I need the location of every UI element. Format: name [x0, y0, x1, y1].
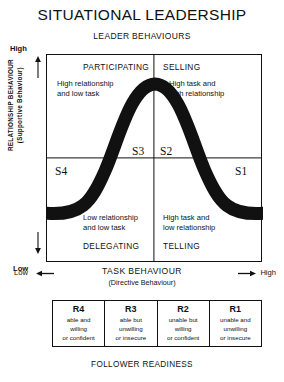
- quadrant-title-delegating: DELEGATING: [83, 241, 139, 251]
- follower-readiness-caption: FOLLOWER READINESS: [0, 360, 284, 369]
- y-axis-label-sub: (Supportive Behaviour): [16, 67, 23, 143]
- style-code-s4: S4: [55, 165, 67, 177]
- quadrant-desc-telling: High task and low relationship: [163, 213, 215, 234]
- leadership-matrix: PARTICIPATING High relationship and low …: [46, 54, 262, 262]
- readiness-cell-r1: R1 unable and unwilling or insecure: [210, 301, 261, 346]
- readiness-code-r2: R2: [177, 304, 189, 315]
- readiness-code-r1: R1: [230, 304, 242, 315]
- x-axis-label-sub: (Directive Behaviour): [0, 278, 284, 287]
- horizontal-divider: [47, 157, 261, 158]
- readiness-cell-r2: R2 unable but willing or confident: [158, 301, 210, 346]
- quadrant-title-selling: SELLING: [163, 62, 201, 72]
- y-axis-label: RELATIONSHIP BEHAVIOUR (Supportive Behav…: [6, 45, 24, 165]
- quadrant-desc-participating: High relationship and low task: [57, 79, 114, 100]
- readiness-desc-r2: unable but willing or confident: [167, 316, 199, 342]
- readiness-code-r3: R3: [125, 304, 137, 315]
- style-code-s1: S1: [235, 165, 247, 177]
- y-axis-label-main: RELATIONSHIP BEHAVIOUR: [7, 59, 14, 151]
- readiness-desc-r1: unable and unwilling or insecure: [220, 316, 251, 342]
- style-code-s2: S2: [160, 145, 172, 157]
- readiness-code-r4: R4: [73, 304, 85, 315]
- quadrant-title-participating: PARTICIPATING: [83, 62, 149, 72]
- readiness-cell-r4: R4 able and willing or confident: [53, 301, 105, 346]
- follower-readiness-table: R4 able and willing or confident R3 able…: [52, 300, 262, 347]
- right-arrow-icon: [238, 269, 256, 278]
- x-axis-high-label: High: [260, 268, 276, 277]
- readiness-cell-r3: R3 able but unwilling or insecure: [105, 301, 157, 346]
- quadrant-desc-selling: High task and high relationship: [169, 79, 224, 100]
- leader-behaviours-caption: LEADER BEHAVIOURS: [0, 31, 284, 41]
- down-arrow-icon: [33, 232, 43, 254]
- readiness-desc-r4: able and willing or confident: [62, 316, 94, 342]
- quadrant-title-telling: TELLING: [163, 241, 200, 251]
- quadrant-desc-delegating: Low relationship and low task: [83, 213, 138, 234]
- readiness-desc-r3: able but unwilling or insecure: [116, 316, 147, 342]
- page-title: SITUATIONAL LEADERSHIP: [0, 6, 284, 24]
- up-arrow-icon: [33, 56, 43, 78]
- style-code-s3: S3: [132, 145, 144, 157]
